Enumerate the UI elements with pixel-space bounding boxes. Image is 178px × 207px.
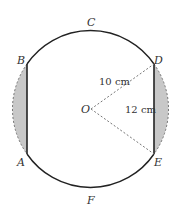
label-D: D (153, 54, 163, 67)
label-F: F (86, 194, 95, 207)
chord-measurement: 12 cm (125, 104, 157, 115)
arc-top-BCD (27, 31, 154, 64)
label-C: C (87, 16, 96, 29)
label-A: A (16, 156, 25, 169)
radius-OE (91, 109, 154, 154)
arc-bottom-AFE (27, 154, 154, 187)
circle-segment-diagram: C B D O A E F 10 cm 12 cm (0, 0, 178, 207)
label-O: O (81, 103, 90, 116)
radius-measurement: 10 cm (99, 76, 131, 87)
label-B: B (16, 54, 25, 67)
label-E: E (153, 156, 162, 169)
